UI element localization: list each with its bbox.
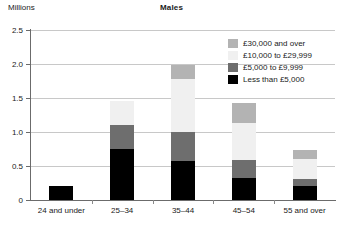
legend-label: Less than £5,000 <box>243 75 304 84</box>
legend-label: £10,000 to £29,999 <box>243 51 312 60</box>
bar-segment[interactable] <box>171 65 195 79</box>
bar-segment[interactable] <box>171 161 195 200</box>
bar-segment[interactable] <box>293 186 317 200</box>
bar-segment[interactable] <box>293 159 317 179</box>
legend-swatch-icon <box>228 75 238 84</box>
x-tick-mark <box>92 200 93 204</box>
x-axis-category-label: 25–34 <box>111 206 133 215</box>
x-axis-category-label: 55 and over <box>283 206 325 215</box>
legend-item[interactable]: £10,000 to £29,999 <box>228 49 312 61</box>
bar-segment[interactable] <box>49 186 73 200</box>
legend-item[interactable]: £30,000 and over <box>228 37 312 49</box>
bar-segment[interactable] <box>293 179 317 186</box>
legend-item[interactable]: Less than £5,000 <box>228 73 312 85</box>
bar-stack[interactable] <box>49 186 73 200</box>
y-tick-label: 2.5 <box>0 26 23 35</box>
bar-segment[interactable] <box>110 101 134 125</box>
bar-stack[interactable] <box>171 65 195 200</box>
legend-swatch-icon <box>228 39 238 48</box>
bar-segment[interactable] <box>232 160 256 178</box>
y-tick-label: 2.0 <box>0 60 23 69</box>
x-axis-category-label: 45–54 <box>233 206 255 215</box>
legend-swatch-icon <box>228 63 238 72</box>
x-axis-category-label: 24 and under <box>38 206 85 215</box>
bar-segment[interactable] <box>110 125 134 149</box>
legend-label: £5,000 to £9,999 <box>243 63 303 72</box>
x-tick-mark <box>274 200 275 204</box>
legend-item[interactable]: £5,000 to £9,999 <box>228 61 312 73</box>
bar-stack[interactable] <box>293 150 317 200</box>
chart-title: Males <box>0 3 343 12</box>
bar-segment[interactable] <box>232 103 256 123</box>
bar-segment[interactable] <box>293 150 317 158</box>
x-axis-line <box>30 200 336 201</box>
bar-segment[interactable] <box>171 79 195 132</box>
bar-segment[interactable] <box>171 132 195 161</box>
bar-stack[interactable] <box>232 103 256 200</box>
bar-segment[interactable] <box>232 123 256 160</box>
y-tick-label: 1.0 <box>0 128 23 137</box>
x-tick-mark <box>213 200 214 204</box>
bar-stack[interactable] <box>110 101 134 200</box>
y-tick-label: 0 <box>0 196 23 205</box>
legend-swatch-icon <box>228 51 238 60</box>
x-tick-mark <box>153 200 154 204</box>
bar-segment[interactable] <box>110 149 134 200</box>
y-tick-mark <box>26 200 31 201</box>
y-tick-label: 1.5 <box>0 94 23 103</box>
legend-label: £30,000 and over <box>243 39 305 48</box>
bar-segment[interactable] <box>232 178 256 200</box>
chart-container: Millions Males 00.51.01.52.02.5 24 and u… <box>0 0 343 238</box>
chart-legend: £30,000 and over £10,000 to £29,999 £5,0… <box>228 37 312 85</box>
y-tick-label: 0.5 <box>0 162 23 171</box>
x-axis-category-label: 35–44 <box>172 206 194 215</box>
